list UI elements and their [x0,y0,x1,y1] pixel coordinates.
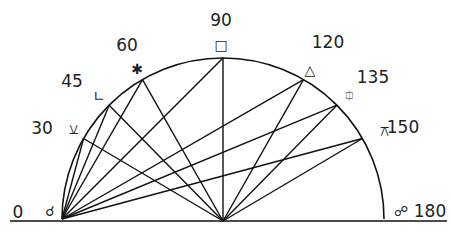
ray-from-conjunction-150 [62,139,362,220]
angle-label-45: 45 [61,71,83,91]
angle-label-180: 180 [414,201,446,221]
trine-icon: △ [305,62,316,78]
opposition-icon: ☍ [394,203,408,219]
sesquiquadrate-icon: ⯐ [344,87,355,103]
ray-from-conjunction-30 [62,139,84,220]
angle-label-135: 135 [357,67,389,87]
angle-label-0: 0 [13,202,24,222]
aspect-rays [62,58,362,221]
ray-from-conjunction-135 [62,105,337,219]
sextile-icon: ✱ [131,61,143,77]
ray-from-conjunction-90 [62,58,223,219]
angle-label-90: 90 [210,10,232,30]
semi-square-icon: ∟ [93,88,105,104]
angle-label-30: 30 [31,118,53,138]
angle-label-120: 120 [312,32,344,52]
angle-label-150: 150 [387,117,419,137]
conjunction-icon: ☌ [45,203,54,219]
angle-label-60: 60 [116,35,138,55]
square-icon: □ [214,37,227,53]
ray-from-center-120 [223,80,304,221]
aspect-diagram: 0☌30⚺45∟60✱90□120△135⯐150⚻180☍ [0,0,453,236]
quincunx-icon: ⚻ [380,123,389,139]
semi-sextile-icon: ⚺ [69,121,78,137]
ray-from-center-60 [143,80,224,221]
